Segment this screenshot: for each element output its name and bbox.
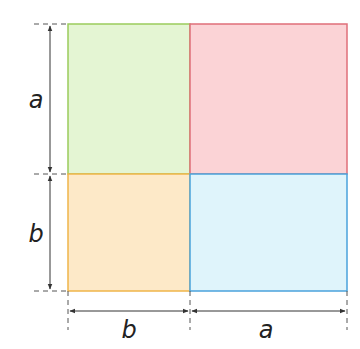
region-top-left <box>68 24 190 174</box>
region-top-right <box>190 24 347 174</box>
label-bottom-a: a <box>259 316 274 344</box>
label-left-a: a <box>29 86 44 114</box>
square-diagram: a b b a <box>0 0 360 349</box>
region-bottom-left <box>68 174 190 291</box>
label-left-b: b <box>28 220 43 248</box>
extension-lines-left <box>34 24 68 291</box>
region-bottom-right <box>190 174 347 291</box>
label-bottom-b: b <box>121 316 136 344</box>
